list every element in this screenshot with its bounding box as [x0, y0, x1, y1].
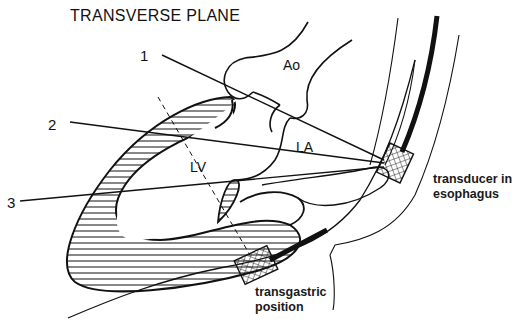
scan-line-2-label: 2	[48, 117, 56, 132]
diagram-canvas: TRANSVERSE PLANE 1 2 3 Ao LA LV transduc…	[0, 0, 522, 325]
esophageal-transducer-caption: transducer in esophagus	[433, 172, 512, 202]
left-ventricle-label: LV	[190, 160, 206, 174]
caption-line: transgastric	[255, 285, 327, 300]
scan-line-3-label: 3	[7, 195, 15, 210]
left-atrium-label: LA	[296, 140, 313, 154]
transgastric-caption: transgastric position	[255, 285, 327, 315]
caption-line: transducer in	[433, 172, 512, 187]
aorta-label: Ao	[283, 58, 300, 72]
caption-line: esophagus	[433, 187, 512, 202]
esophageal-probe-shaft	[402, 16, 437, 152]
anatomy-drawing	[0, 0, 522, 325]
caption-line: position	[255, 300, 327, 315]
diagram-title: TRANSVERSE PLANE	[70, 8, 240, 24]
scan-line-1-label: 1	[140, 48, 148, 63]
